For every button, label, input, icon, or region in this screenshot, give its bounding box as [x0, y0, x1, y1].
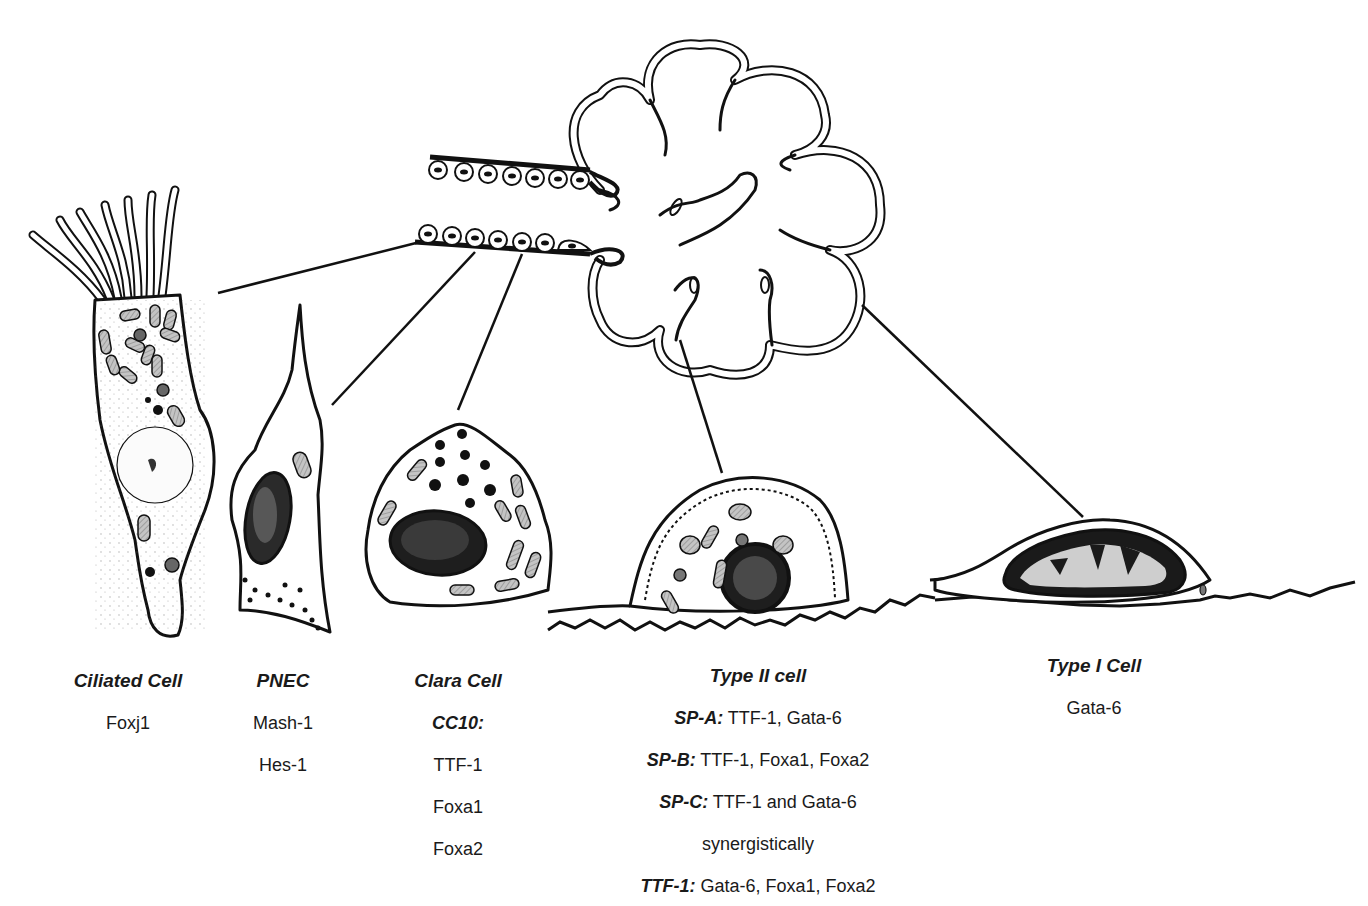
marker-key: SP-C:: [659, 792, 708, 812]
marker-value: Gata-6, Foxa1, Foxa2: [695, 876, 875, 896]
marker-line: CC10:: [414, 712, 502, 734]
marker-value: Gata-6: [1066, 698, 1121, 718]
marker-value: Foxa2: [433, 839, 483, 859]
marker-list: CC10:TTF-1Foxa1Foxa2: [414, 712, 502, 860]
marker-value: TTF-1: [434, 755, 483, 775]
marker-line: SP-C: TTF-1 and Gata-6: [640, 791, 875, 813]
marker-line: Gata-6: [1047, 697, 1141, 719]
cell-title: PNEC: [253, 670, 313, 692]
cell-label-clara: Clara Cell CC10:TTF-1Foxa1Foxa2: [414, 670, 502, 860]
alveolar-sac-drawing: [574, 44, 881, 374]
marker-list: Gata-6: [1047, 697, 1141, 719]
pnec-cell-drawing: [231, 305, 330, 632]
marker-value: Foxj1: [106, 713, 150, 733]
marker-line: SP-B: TTF-1, Foxa1, Foxa2: [640, 749, 875, 771]
marker-list: SP-A: TTF-1, Gata-6SP-B: TTF-1, Foxa1, F…: [640, 707, 875, 897]
marker-value: Foxa1: [433, 797, 483, 817]
marker-list: Mash-1Hes-1: [253, 712, 313, 776]
type-i-cell-drawing: [935, 520, 1210, 602]
cell-label-type1: Type I Cell Gata-6: [1047, 655, 1141, 719]
marker-line: Mash-1: [253, 712, 313, 734]
marker-key: TTF-1:: [640, 876, 695, 896]
marker-line: Hes-1: [253, 754, 313, 776]
cell-title: Clara Cell: [414, 670, 502, 692]
marker-key: SP-A:: [674, 708, 723, 728]
bronchiole-epithelium-drawing: [415, 157, 623, 265]
marker-value: TTF-1, Foxa1, Foxa2: [696, 750, 870, 770]
marker-line: Foxa1: [414, 796, 502, 818]
marker-line: Foxa2: [414, 838, 502, 860]
marker-key: SP-B:: [647, 750, 696, 770]
marker-value: synergistically: [702, 834, 814, 854]
marker-value: Mash-1: [253, 713, 313, 733]
marker-value: Hes-1: [259, 755, 307, 775]
marker-value: TTF-1 and Gata-6: [708, 792, 857, 812]
marker-line: TTF-1: [414, 754, 502, 776]
marker-value: TTF-1, Gata-6: [723, 708, 842, 728]
marker-line: Foxj1: [74, 712, 183, 734]
marker-list: Foxj1: [74, 712, 183, 734]
cell-title: Type I Cell: [1047, 655, 1141, 677]
ciliated-cell-drawing: [33, 190, 214, 636]
type-ii-cell-drawing: [630, 478, 848, 615]
cell-label-type2: Type II cell SP-A: TTF-1, Gata-6SP-B: TT…: [640, 665, 875, 897]
clara-cell-drawing: [366, 424, 551, 606]
connector-lines: [218, 242, 1083, 517]
cell-label-ciliated: Ciliated Cell Foxj1: [74, 670, 183, 734]
cell-label-pnec: PNEC Mash-1Hes-1: [253, 670, 313, 776]
marker-line: TTF-1: Gata-6, Foxa1, Foxa2: [640, 875, 875, 897]
marker-key: CC10:: [432, 713, 484, 733]
cell-title: Type II cell: [640, 665, 875, 687]
marker-line: synergistically: [640, 833, 875, 855]
cell-title: Ciliated Cell: [74, 670, 183, 692]
marker-line: SP-A: TTF-1, Gata-6: [640, 707, 875, 729]
